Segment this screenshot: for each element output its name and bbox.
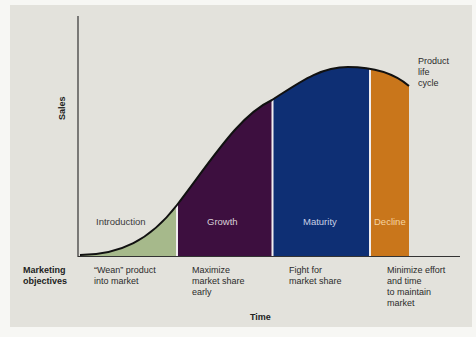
objective-decline: Minimize effort and time to maintain mar…	[387, 265, 445, 309]
objective-line: Maximize	[192, 265, 245, 276]
objectives-row-label-line: objectives	[23, 276, 67, 287]
curve-label-line: Product	[418, 56, 449, 67]
curve-label: Product life cycle	[418, 56, 449, 89]
stage-label-growth: Growth	[207, 216, 238, 227]
stage-label-decline: Decline	[374, 216, 406, 227]
objective-line: “Wean” product	[94, 265, 156, 276]
objective-line: market	[387, 298, 445, 309]
objective-maturity: Fight for market share	[289, 265, 342, 287]
objective-line: market share	[192, 276, 245, 287]
objective-growth: Maximize market share early	[192, 265, 245, 298]
objective-line: Fight for	[289, 265, 342, 276]
objective-line: Minimize effort	[387, 265, 445, 276]
objective-line: and time	[387, 276, 445, 287]
x-axis-label: Time	[250, 312, 271, 323]
objective-line: market share	[289, 276, 342, 287]
stage-label-maturity: Maturity	[303, 216, 337, 227]
objective-introduction: “Wean” product into market	[94, 265, 156, 287]
objectives-row-label-line: Marketing	[23, 265, 67, 276]
curve-label-line: life	[418, 67, 449, 78]
y-axis-label: Sales	[57, 96, 67, 120]
objectives-row-label: Marketing objectives	[23, 265, 67, 287]
objective-line: early	[192, 287, 245, 298]
curve-label-line: cycle	[418, 78, 449, 89]
stage-label-introduction: Introduction	[96, 216, 146, 227]
objective-line: into market	[94, 276, 156, 287]
objective-line: to maintain	[387, 287, 445, 298]
